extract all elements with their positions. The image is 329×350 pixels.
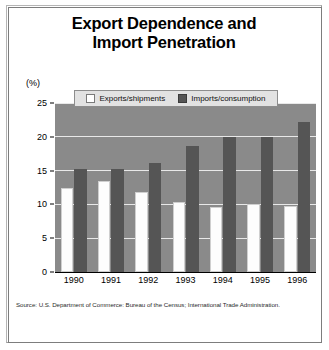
y-axis-tick: 5 [42, 233, 47, 243]
x-axis-tick-1990: 1990 [64, 275, 84, 285]
bar-imports-1996 [298, 122, 311, 272]
bar-exports-1992 [135, 192, 148, 272]
bar-imports-1990 [74, 169, 87, 272]
bar-exports-1993 [173, 202, 186, 272]
legend-item-exports: Exports/shipments [86, 94, 165, 103]
x-axis-tick-labels: 1990199119921993199419951996 [55, 275, 316, 291]
bar-chart: (%) 0510152025 Exports/shipments Imports… [14, 78, 316, 293]
x-axis-tick-1994: 1994 [213, 275, 233, 285]
bar-imports-1992 [149, 163, 162, 273]
x-axis-tick-1992: 1992 [138, 275, 158, 285]
y-axis-tick-mark [50, 204, 54, 205]
y-axis-tick: 0 [42, 267, 47, 277]
chart-legend: Exports/shipments Imports/consumption [74, 90, 278, 107]
bar-imports-1995 [261, 137, 274, 272]
bar-exports-1991 [98, 181, 111, 272]
bar-exports-1990 [61, 188, 74, 273]
gridline [55, 136, 316, 137]
title-line-1: Export Dependence and [14, 14, 314, 33]
legend-swatch-exports-icon [86, 94, 95, 103]
y-axis-tick-mark [50, 170, 54, 171]
source-divider [15, 296, 313, 297]
y-axis-tick: 15 [37, 166, 47, 176]
legend-item-imports: Imports/consumption [178, 94, 265, 103]
y-axis-tick: 10 [37, 199, 47, 209]
y-axis-unit-label: (%) [26, 78, 40, 88]
bar-exports-1995 [247, 204, 260, 272]
legend-label-exports: Exports/shipments [99, 94, 165, 103]
x-axis-tick-1996: 1996 [287, 275, 307, 285]
bar-imports-1993 [186, 146, 199, 272]
y-axis-tick-mark [50, 238, 54, 239]
page-title: Export Dependence and Import Penetration [14, 14, 314, 52]
x-axis-tick-1993: 1993 [175, 275, 195, 285]
bar-exports-1996 [284, 206, 297, 272]
x-axis-tick-1991: 1991 [101, 275, 121, 285]
y-axis-tick: 20 [37, 132, 47, 142]
legend-label-imports: Imports/consumption [191, 94, 265, 103]
y-axis-tick-mark [50, 272, 54, 273]
title-line-2: Import Penetration [14, 33, 314, 52]
y-axis-tick-mark [50, 103, 54, 104]
x-axis-tick-1995: 1995 [250, 275, 270, 285]
y-axis-tick-mark [50, 136, 54, 137]
chart-page: Export Dependence and Import Penetration… [0, 0, 329, 350]
plot-area [55, 103, 316, 273]
legend-swatch-imports-icon [178, 94, 187, 103]
bar-imports-1991 [111, 169, 124, 272]
y-axis-tick-labels: 0510152025 [14, 103, 50, 272]
y-axis-tick: 25 [37, 98, 47, 108]
bar-exports-1994 [210, 207, 223, 272]
bar-imports-1994 [223, 137, 236, 272]
source-caption: Source: U.S. Department of Commerce: Bur… [16, 300, 312, 309]
